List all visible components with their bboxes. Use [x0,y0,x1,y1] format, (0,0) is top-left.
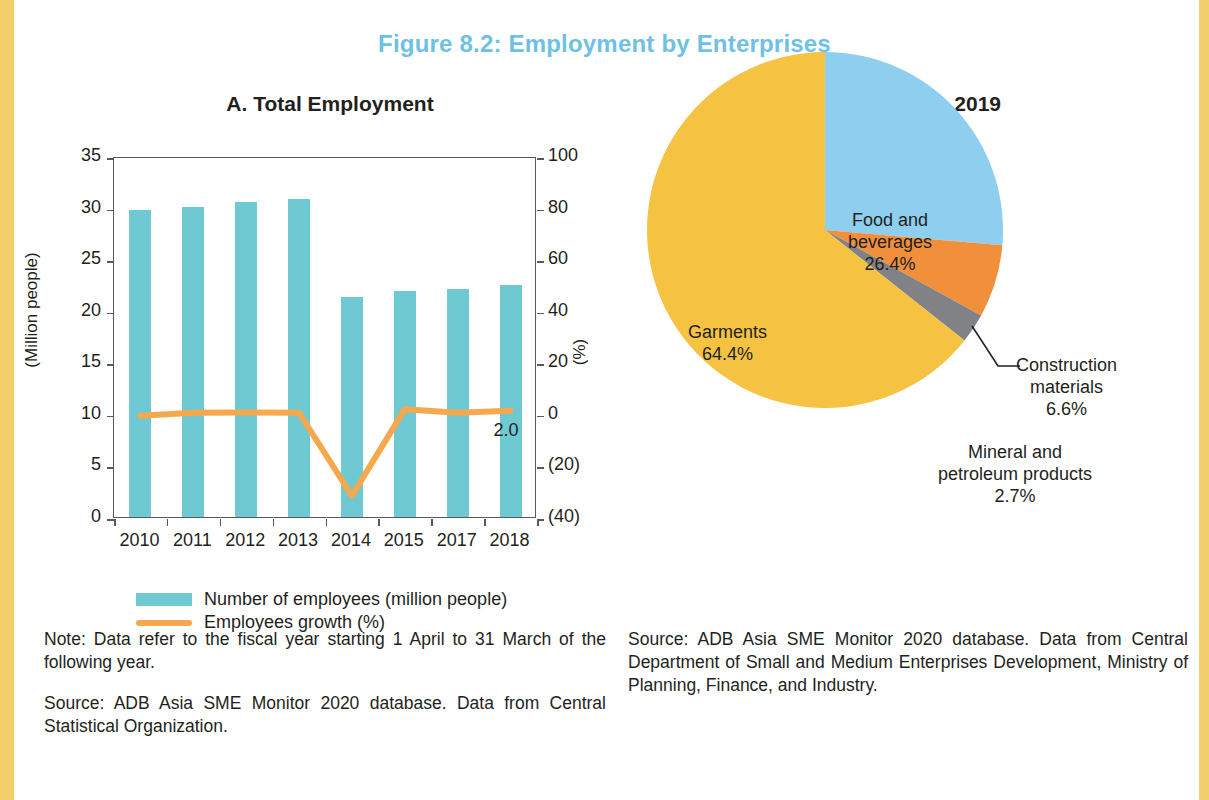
y-axis-right-tick-label: 60 [548,248,604,269]
growth-line-series [114,158,537,519]
y-axis-right-tickmark [537,158,544,160]
legend-item-bars: Number of employees (million people) [136,588,507,611]
y-axis-right-tick-label: 20 [548,351,604,372]
y-axis-left-tick-label: 5 [55,454,101,475]
legend-label-bars: Number of employees (million people) [204,589,507,610]
y-axis-left-tick-label: 0 [55,506,101,527]
y-axis-left-tickmark [107,364,114,366]
pie-label-mineral-and-petroleum-products: Mineral andpetroleum products2.7% [938,442,1092,508]
x-axis-tickmark [537,519,539,526]
x-axis-tick-label: 2014 [325,530,378,551]
pie-label-value: 64.4% [688,344,767,366]
y-axis-left-tickmark [107,313,114,315]
x-axis-tickmark [167,519,169,526]
y-axis-left-tick-label: 35 [55,145,101,166]
pie-label-value: 2.7% [938,486,1092,508]
y-axis-right-tick-label: 0 [548,403,604,424]
y-axis-left-tickmark [107,519,114,521]
legend-bar-swatch-icon [136,593,192,606]
y-axis-right-tickmark [537,210,544,212]
y-axis-right-tick-label: 100 [548,145,604,166]
y-axis-right-tickmark [537,313,544,315]
y-axis-left-title: (Million people) [22,230,42,390]
growth-value-label: 2.0 [494,420,519,441]
y-axis-right-tickmark [537,416,544,418]
y-axis-left-tick-label: 10 [55,403,101,424]
pie-label-text: Garments [688,322,767,344]
x-axis-tickmark [114,519,116,526]
y-axis-left-tickmark [107,210,114,212]
x-axis-tickmark [326,519,328,526]
x-axis-tick-label: 2011 [166,530,219,551]
y-axis-left-tick-label: 15 [55,351,101,372]
y-axis-left-tick-label: 25 [55,248,101,269]
x-axis-tickmark [273,519,275,526]
y-axis-right-tick-label: (40) [548,506,604,527]
pie-label-text: Food andbeverages [848,210,932,254]
x-axis-tick-label: 2010 [113,530,166,551]
y-axis-left-tick-label: 20 [55,300,101,321]
x-axis-tick-label: 2013 [272,530,325,551]
y-axis-right-tick-label: (20) [548,454,604,475]
pie-label-text: Mineral andpetroleum products [938,442,1092,486]
pie-label-value: 26.4% [848,254,932,276]
y-axis-left-tick-label: 30 [55,197,101,218]
total-employment-chart: (Million people) (%) 05101520253035 (40)… [0,0,620,580]
x-axis-tickmark [220,519,222,526]
y-axis-left-tickmark [107,158,114,160]
plot-area [113,157,536,518]
y-axis-left-tickmark [107,261,114,263]
sector-pie-chart: Food andbeverages26.4%Constructionmateri… [620,0,1209,580]
pie-leader-line [972,326,1020,366]
source-left: Source: ADB Asia SME Monitor 2020 databa… [44,692,606,738]
note-left: Note: Data refer to the fiscal year star… [44,628,606,674]
x-axis-tickmark [378,519,380,526]
x-axis-tick-label: 2017 [430,530,483,551]
y-axis-right-tickmark [537,467,544,469]
x-axis-tickmark [484,519,486,526]
pie-label-text: Constructionmaterials [1016,355,1117,399]
growth-line [140,409,510,496]
pie-label-construction-materials: Constructionmaterials6.6% [1016,355,1117,421]
source-right: Source: ADB Asia SME Monitor 2020 databa… [628,628,1188,697]
pie-label-garments: Garments64.4% [688,322,767,366]
y-axis-right-tick-label: 40 [548,300,604,321]
y-axis-right-tickmark [537,261,544,263]
legend-line-swatch-icon [136,620,192,626]
x-axis-tickmark [431,519,433,526]
pie-svg [620,30,1209,550]
pie-label-food-and-beverages: Food andbeverages26.4% [848,210,932,276]
x-axis-tick-label: 2018 [483,530,536,551]
pie-label-value: 6.6% [1016,399,1117,421]
x-axis-tick-label: 2015 [377,530,430,551]
x-axis-tick-label: 2012 [219,530,272,551]
y-axis-right-tick-label: 80 [548,197,604,218]
y-axis-left-tickmark [107,467,114,469]
y-axis-right-tickmark [537,364,544,366]
y-axis-left-tickmark [107,416,114,418]
